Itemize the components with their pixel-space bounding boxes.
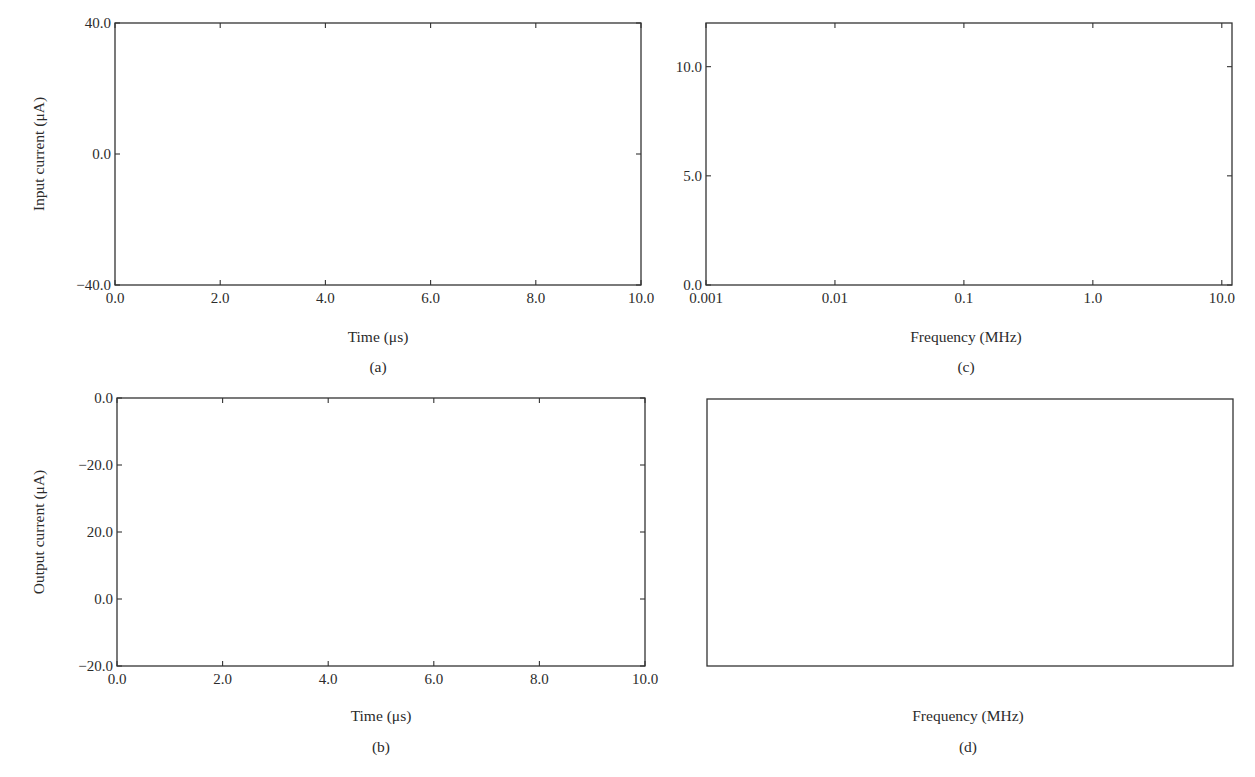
panel-c-input-spectrum: 0.0010.010.11.010.0 10.05.00.0 Frequency… bbox=[676, 23, 1235, 376]
plot-frame bbox=[707, 399, 1233, 666]
plot-frame bbox=[706, 23, 1232, 285]
x-tick-label: 4.0 bbox=[319, 671, 338, 687]
y-tick-label: −20.0 bbox=[78, 658, 113, 674]
x-axis-title: Time (μs) bbox=[348, 328, 409, 346]
x-axis-title: Frequency (MHz) bbox=[910, 328, 1021, 346]
panel-caption: (b) bbox=[372, 738, 390, 756]
y-axis-ticks: 10.05.00.0 bbox=[676, 59, 1232, 293]
y-tick-label: 40.0 bbox=[85, 15, 111, 31]
panel-d-output-spectrum: Frequency (MHz) (d) bbox=[707, 399, 1233, 756]
x-tick-label: 2.0 bbox=[211, 290, 230, 306]
y-tick-label: 0.0 bbox=[94, 390, 113, 406]
x-tick-label: 1.0 bbox=[1083, 290, 1102, 306]
x-tick-label: 6.0 bbox=[424, 671, 443, 687]
y-axis-ticks: 40.00.0−40.0 bbox=[76, 15, 641, 293]
x-tick-label: 0.1 bbox=[955, 290, 974, 306]
x-tick-label: 2.0 bbox=[213, 671, 232, 687]
x-tick-label: 4.0 bbox=[316, 290, 335, 306]
figure-canvas: 0.02.04.06.08.010.0 40.00.0−40.0 Time (μ… bbox=[0, 0, 1255, 777]
x-axis-ticks: 0.02.04.06.08.010.0 bbox=[106, 23, 655, 306]
x-tick-label: 0.01 bbox=[822, 290, 848, 306]
x-tick-label: 10.0 bbox=[628, 290, 654, 306]
panel-b-output-current: 0.02.04.06.08.010.0 0.0−20.020.00.0−20.0… bbox=[30, 390, 658, 756]
y-axis-ticks: 0.0−20.020.00.0−20.0 bbox=[78, 390, 645, 674]
panel-caption: (a) bbox=[369, 358, 386, 376]
panel-a-input-current: 0.02.04.06.08.010.0 40.00.0−40.0 Time (μ… bbox=[30, 15, 654, 376]
x-axis-title: Frequency (MHz) bbox=[912, 707, 1023, 725]
panel-caption: (c) bbox=[957, 358, 974, 376]
y-tick-label: 0.0 bbox=[92, 146, 111, 162]
x-tick-label: 8.0 bbox=[526, 290, 545, 306]
x-axis-title: Time (μs) bbox=[351, 707, 412, 725]
x-tick-label: 6.0 bbox=[421, 290, 440, 306]
x-axis-ticks: 0.02.04.06.08.010.0 bbox=[108, 398, 659, 687]
x-axis-ticks: 0.0010.010.11.010.0 bbox=[689, 23, 1235, 306]
x-tick-label: 8.0 bbox=[530, 671, 549, 687]
y-tick-label: 0.0 bbox=[94, 591, 113, 607]
y-tick-label: 20.0 bbox=[87, 524, 113, 540]
x-tick-label: 10.0 bbox=[1209, 290, 1235, 306]
y-tick-label: 0.0 bbox=[683, 277, 702, 293]
panel-caption: (d) bbox=[959, 738, 977, 756]
y-axis-title: Input current (μA) bbox=[30, 97, 48, 211]
plot-frame bbox=[117, 398, 645, 666]
x-tick-label: 10.0 bbox=[632, 671, 658, 687]
y-tick-label: −20.0 bbox=[78, 457, 113, 473]
y-axis-title: Output current (μA) bbox=[30, 470, 48, 595]
plot-frame bbox=[115, 23, 641, 285]
y-tick-label: 10.0 bbox=[676, 59, 702, 75]
y-tick-label: 5.0 bbox=[683, 168, 702, 184]
y-tick-label: −40.0 bbox=[76, 277, 111, 293]
